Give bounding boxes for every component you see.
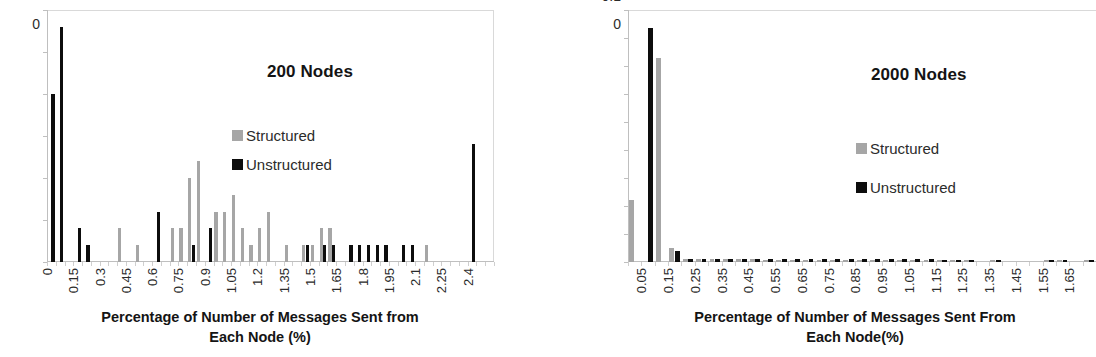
x-tick-label: 0.15 — [67, 268, 80, 293]
x-axis-title-line2: Each Node (%) — [40, 328, 480, 348]
x-tick-mark — [389, 262, 390, 266]
x-tick-label: 1.65 — [330, 268, 343, 293]
x-tick-mark — [962, 262, 963, 266]
x-tick-label: 2.25 — [435, 268, 448, 293]
x-tick-mark — [240, 262, 241, 266]
x-tick-mark — [628, 262, 629, 266]
x-tick-label: 0.3 — [94, 268, 107, 286]
x-tick-mark — [494, 262, 495, 266]
x-tick-mark — [708, 262, 709, 266]
legend-label-unstructured: Unstructured — [246, 156, 332, 173]
x-tick-mark — [735, 262, 736, 266]
x-tick-mark — [187, 262, 188, 266]
x-tick-mark — [1056, 262, 1057, 266]
x-tick-mark — [319, 262, 320, 266]
legend-swatch-unstructured-icon — [232, 159, 243, 170]
x-tick-mark — [815, 262, 816, 266]
x-tick-mark — [1029, 262, 1030, 266]
x-tick-mark — [762, 262, 763, 266]
plot-area-2000-nodes: 0.90.80.70.60.50.40.30.20.10 0.050.150.2… — [628, 10, 1096, 262]
x-tick-mark — [1016, 262, 1017, 266]
x-tick-mark — [722, 262, 723, 266]
x-tick-mark — [266, 262, 267, 266]
legend-label-structured: Structured — [870, 140, 939, 157]
legend-swatch-structured-icon — [856, 143, 867, 154]
x-tick-label: 1.45 — [1010, 268, 1023, 293]
x-tick-mark — [205, 262, 206, 266]
x-ticks-2000: 0.050.150.250.350.450.550.650.750.850.95… — [628, 10, 1096, 262]
x-tick-mark — [949, 262, 950, 266]
x-tick-mark — [398, 262, 399, 266]
x-tick-mark — [1069, 262, 1070, 266]
x-tick-label: 1.65 — [1063, 268, 1076, 293]
x-tick-label: 0.9 — [199, 268, 212, 286]
x-tick-label: 1.05 — [903, 268, 916, 293]
x-tick-label: 0.15 — [662, 268, 675, 293]
legend-200-nodes: Structured Unstructured — [232, 127, 332, 185]
x-tick-mark — [882, 262, 883, 266]
x-tick-mark — [1002, 262, 1003, 266]
x-tick-label: 2.1 — [409, 268, 422, 286]
x-tick-mark — [829, 262, 830, 266]
x-tick-mark — [249, 262, 250, 266]
x-axis-title-line1: Percentage of Number of Messages Sent fr… — [101, 309, 418, 325]
x-tick-mark — [336, 262, 337, 266]
x-tick-mark — [655, 262, 656, 266]
x-tick-mark — [73, 262, 74, 266]
x-tick-mark — [47, 262, 48, 266]
x-tick-mark — [82, 262, 83, 266]
x-tick-mark — [909, 262, 910, 266]
x-axis-title-2000-nodes: Percentage of Number of Messages Sent Fr… — [620, 308, 1090, 347]
x-tick-mark — [91, 262, 92, 266]
legend-item-structured: Structured — [856, 140, 956, 157]
x-tick-label: 1.15 — [930, 268, 943, 293]
x-tick-label: 0.05 — [635, 268, 648, 293]
x-tick-label: 0.85 — [849, 268, 862, 293]
y-tick-label: 0 — [32, 17, 47, 31]
x-tick-label: 0.75 — [172, 268, 185, 293]
figure-canvas: 0.30.250.20.150.10.050 00.150.30.450.60.… — [0, 0, 1096, 357]
y-tick-label: 0 — [613, 17, 628, 31]
x-tick-mark — [284, 262, 285, 266]
x-tick-mark — [748, 262, 749, 266]
x-tick-mark — [855, 262, 856, 266]
chart-title-200-nodes: 200 Nodes — [267, 62, 353, 82]
x-tick-label: 0.95 — [876, 268, 889, 293]
x-tick-mark — [292, 262, 293, 266]
x-tick-label: 1.95 — [383, 268, 396, 293]
chart-panel-2000-nodes: 0.90.80.70.60.50.40.30.20.10 0.050.150.2… — [560, 0, 1096, 357]
x-tick-mark — [161, 262, 162, 266]
legend-item-structured: Structured — [232, 127, 332, 144]
legend-label-unstructured: Unstructured — [870, 179, 956, 196]
x-tick-mark — [895, 262, 896, 266]
x-tick-label: 1.35 — [278, 268, 291, 293]
x-tick-label: 0 — [41, 268, 54, 275]
x-tick-mark — [345, 262, 346, 266]
chart-panel-200-nodes: 0.30.250.20.150.10.050 00.150.30.450.60.… — [0, 0, 520, 357]
x-tick-mark — [433, 262, 434, 266]
x-tick-mark — [117, 262, 118, 266]
x-tick-mark — [56, 262, 57, 266]
x-tick-mark — [1043, 262, 1044, 266]
x-tick-mark — [922, 262, 923, 266]
x-tick-label: 1.8 — [357, 268, 370, 286]
legend-swatch-unstructured-icon — [856, 182, 867, 193]
x-tick-mark — [380, 262, 381, 266]
x-tick-mark — [936, 262, 937, 266]
x-tick-label: 0.55 — [769, 268, 782, 293]
x-tick-mark — [424, 262, 425, 266]
x-tick-mark — [100, 262, 101, 266]
x-tick-mark — [371, 262, 372, 266]
x-axis-title-200-nodes: Percentage of Number of Messages Sent fr… — [40, 308, 480, 347]
x-tick-mark — [152, 262, 153, 266]
x-tick-mark — [327, 262, 328, 266]
x-tick-mark — [214, 262, 215, 266]
x-tick-label: 0.35 — [716, 268, 729, 293]
x-tick-label: 0.65 — [796, 268, 809, 293]
x-tick-mark — [1083, 262, 1084, 266]
x-tick-mark — [170, 262, 171, 266]
x-tick-label: 2.4 — [462, 268, 475, 286]
x-tick-mark — [695, 262, 696, 266]
x-tick-mark — [459, 262, 460, 266]
x-tick-label: 1.5 — [304, 268, 317, 286]
